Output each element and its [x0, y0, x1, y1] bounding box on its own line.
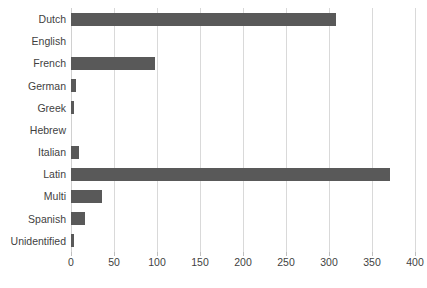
bar-rows — [71, 8, 415, 252]
x-tick-label-50: 50 — [108, 256, 120, 268]
bar-multi[interactable] — [71, 190, 102, 203]
bar-italian[interactable] — [71, 146, 79, 159]
plot-area — [71, 8, 415, 252]
x-tick-label-100: 100 — [148, 256, 166, 268]
bar-row — [71, 141, 415, 163]
x-tick-label-0: 0 — [68, 256, 74, 268]
category-label-english: English — [2, 30, 66, 52]
x-tick-label-150: 150 — [191, 256, 209, 268]
bar-german[interactable] — [71, 79, 76, 92]
category-label-dutch: Dutch — [2, 8, 66, 30]
x-tick-label-250: 250 — [277, 256, 295, 268]
value-axis-labels: 050100150200250300350400 — [71, 256, 415, 276]
category-label-multi: Multi — [2, 185, 66, 207]
x-tick-label-200: 200 — [234, 256, 252, 268]
category-label-unidentified: Unidentified — [2, 230, 66, 252]
category-axis-labels: DutchEnglishFrenchGermanGreekHebrewItali… — [0, 8, 66, 252]
category-label-greek: Greek — [2, 97, 66, 119]
category-label-latin: Latin — [2, 163, 66, 185]
bar-row — [71, 185, 415, 207]
bar-french[interactable] — [71, 57, 155, 70]
x-tick-label-400: 400 — [406, 256, 424, 268]
bar-dutch[interactable] — [71, 13, 336, 26]
bar-spanish[interactable] — [71, 212, 85, 225]
bar-unidentified[interactable] — [71, 234, 74, 247]
bar-chart: DutchEnglishFrenchGermanGreekHebrewItali… — [0, 0, 427, 288]
category-label-hebrew: Hebrew — [2, 119, 66, 141]
bar-row — [71, 163, 415, 185]
category-label-french: French — [2, 52, 66, 74]
category-label-german: German — [2, 75, 66, 97]
bar-row — [71, 52, 415, 74]
x-tick-label-300: 300 — [320, 256, 338, 268]
bar-row — [71, 8, 415, 30]
bar-latin[interactable] — [71, 168, 390, 181]
gridline-400 — [415, 8, 416, 252]
bar-row — [71, 230, 415, 252]
bar-row — [71, 119, 415, 141]
bar-row — [71, 208, 415, 230]
bar-row — [71, 30, 415, 52]
category-label-italian: Italian — [2, 141, 66, 163]
x-tick-label-350: 350 — [363, 256, 381, 268]
category-label-spanish: Spanish — [2, 208, 66, 230]
bar-row — [71, 97, 415, 119]
bar-greek[interactable] — [71, 101, 74, 114]
bar-row — [71, 75, 415, 97]
